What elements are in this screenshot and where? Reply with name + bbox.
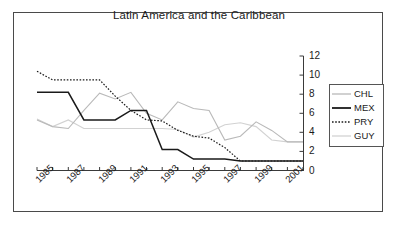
series-line-mex xyxy=(37,92,303,161)
legend-label-pry: PRY xyxy=(354,115,373,129)
axes xyxy=(37,56,304,171)
legend-label-guy: GUY xyxy=(354,129,375,143)
series-line-guy xyxy=(37,119,303,142)
y-tick-label: 12 xyxy=(309,50,329,61)
chart-legend: CHL MEX PRY GUY xyxy=(329,84,384,147)
legend-item-pry[interactable]: PRY xyxy=(332,115,380,129)
legend-item-guy[interactable]: GUY xyxy=(332,129,380,143)
legend-item-chl[interactable]: CHL xyxy=(332,87,380,101)
series-lines xyxy=(37,71,303,161)
legend-label-mex: MEX xyxy=(354,101,375,115)
series-line-pry xyxy=(37,71,303,161)
y-tick-label: 2 xyxy=(309,145,329,156)
y-tick-label: 4 xyxy=(309,126,329,137)
y-tick-label: 6 xyxy=(309,107,329,118)
y-tick-label: 0 xyxy=(309,165,329,176)
legend-item-mex[interactable]: MEX xyxy=(332,101,380,115)
y-tick-label: 10 xyxy=(309,69,329,80)
y-tick-label: 8 xyxy=(309,88,329,99)
legend-label-chl: CHL xyxy=(354,87,373,101)
series-line-chl xyxy=(37,92,303,142)
y-axis-ticks xyxy=(300,56,304,171)
